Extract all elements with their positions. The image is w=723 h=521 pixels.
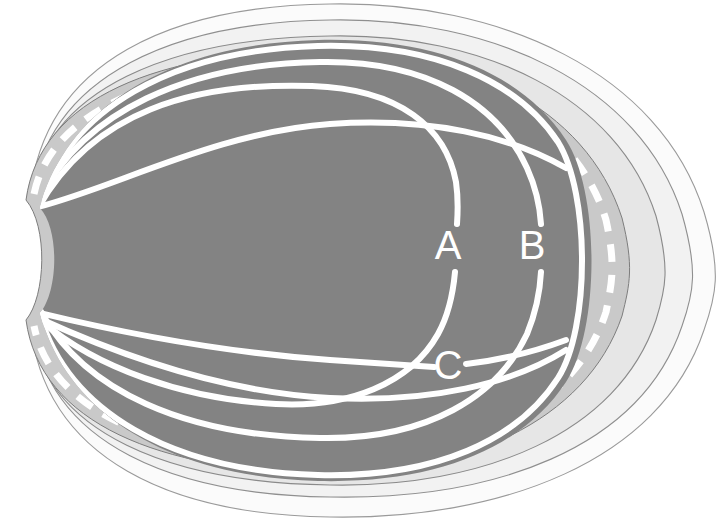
label-a: A: [435, 223, 462, 267]
label-b: B: [519, 223, 546, 267]
figure-container: A B C: [0, 0, 723, 521]
diagram-canvas: A B C: [0, 0, 723, 521]
layer-inner-core: [40, 40, 592, 481]
label-c: C: [434, 343, 463, 387]
